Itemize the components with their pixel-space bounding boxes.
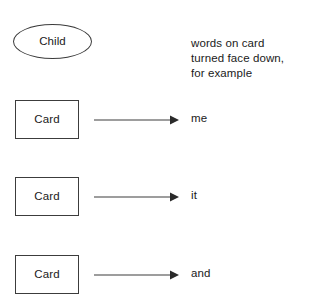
- arrow-right-icon: [94, 113, 180, 127]
- word-label: me: [191, 113, 207, 125]
- child-node-label: Child: [39, 36, 66, 48]
- annotation-line-1: words on card: [191, 36, 319, 51]
- diagram-canvas: Child words on card turned face down, fo…: [0, 0, 325, 304]
- annotation-line-3: for example: [191, 66, 319, 81]
- annotation-text: words on card turned face down, for exam…: [191, 36, 319, 81]
- card-node-label: Card: [34, 191, 59, 203]
- arrow-right-icon: [94, 190, 180, 204]
- arrow-right-icon: [94, 268, 180, 282]
- child-node: Child: [13, 24, 92, 59]
- annotation-line-2: turned face down,: [191, 51, 319, 66]
- card-node-label: Card: [34, 269, 59, 281]
- card-node: Card: [15, 100, 79, 139]
- word-label: and: [191, 268, 211, 280]
- card-node-label: Card: [34, 114, 59, 126]
- card-node: Card: [15, 255, 79, 294]
- card-node: Card: [15, 177, 79, 216]
- word-label: it: [191, 190, 197, 202]
